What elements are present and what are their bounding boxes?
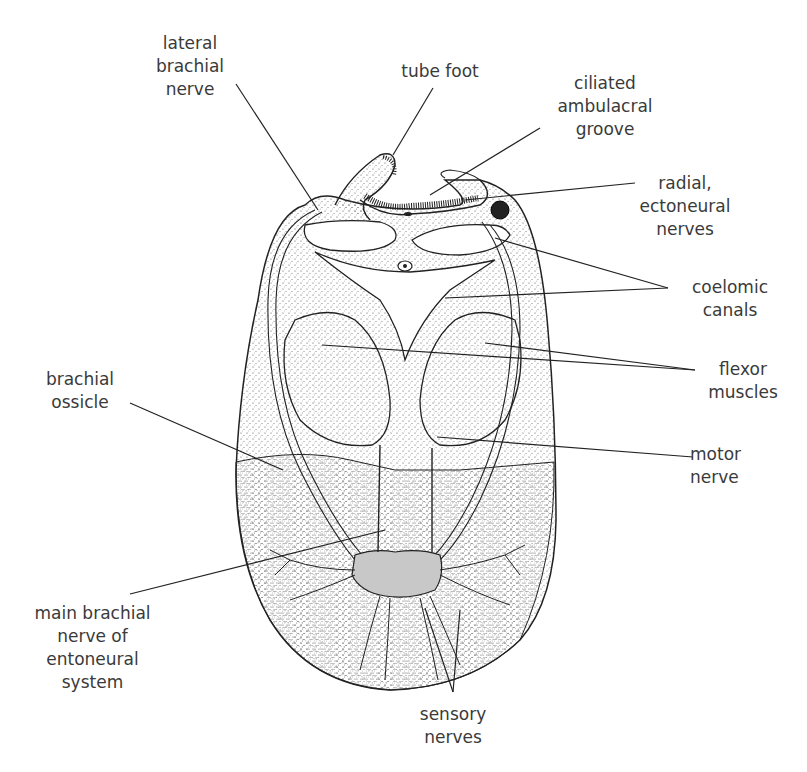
label-brachial-ossicle: brachial ossicle (30, 368, 130, 414)
label-tube-foot: tube foot (390, 60, 490, 83)
label-sensory-nerves: sensory nerves (403, 703, 503, 749)
label-motor-nerve: motor nerve (690, 443, 780, 489)
label-radial-ectoneural-nerves: radial, ectoneural nerves (630, 172, 740, 241)
leader-tube-foot (393, 88, 433, 155)
label-lateral-brachial-nerve: lateral brachial nerve (140, 32, 240, 101)
label-coelomic-canals: coelomic canals (680, 276, 780, 322)
radial-nerve-dot (491, 201, 509, 219)
label-flexor-muscles: flexor muscles (693, 358, 793, 404)
label-ciliated-ambulacral-groove: ciliated ambulacral groove (550, 72, 660, 141)
leader-lateral-brachial-nerve (236, 84, 318, 210)
label-main-brachial-nerve: main brachial nerve of entoneural system (20, 602, 165, 694)
